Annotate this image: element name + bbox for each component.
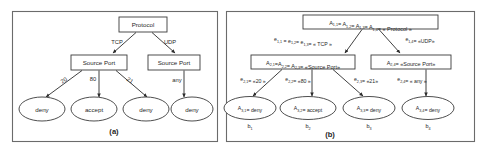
panel-a-edge-label-any: any bbox=[172, 77, 181, 83]
figure-container: Protocol TCP UDP Source Port Source Port… bbox=[0, 0, 488, 151]
panel-a-level2-label-1: Source Port bbox=[158, 59, 191, 66]
panel-a-edge-label-80: 80 bbox=[90, 76, 96, 82]
panel-a-leaf-label-1: accept bbox=[85, 106, 104, 113]
panel-a-root-label: Protocol bbox=[132, 21, 155, 28]
panel-a-leaf-label-0: deny bbox=[35, 106, 49, 113]
panel-a-edge-label-udp: UDP bbox=[164, 39, 176, 45]
panel-b-frame bbox=[227, 12, 475, 142]
panel-a-leaf-label-3: deny bbox=[185, 106, 199, 113]
panel-a-leaf-label-2: deny bbox=[139, 106, 153, 113]
panel-a-caption: (a) bbox=[109, 127, 119, 136]
panel-b-caption: (b) bbox=[325, 130, 335, 139]
panel-a-frame bbox=[13, 12, 218, 142]
panel-a-edge-label-tcp: TCP bbox=[111, 39, 123, 45]
panel-a-level2-label-0: Source Port bbox=[83, 59, 116, 66]
diagram-canvas: Protocol TCP UDP Source Port Source Port… bbox=[0, 0, 488, 151]
